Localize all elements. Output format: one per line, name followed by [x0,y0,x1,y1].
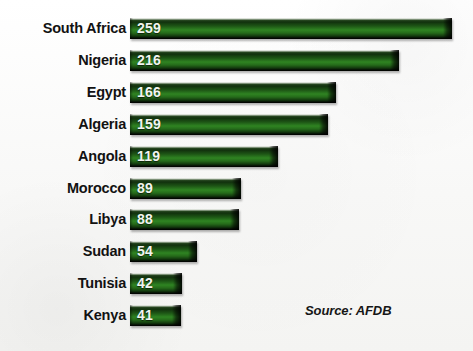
bar-row: Egypt166 [0,82,473,103]
bar-row: Tunisia42 [0,273,473,294]
source-annotation: Source: AFDB [305,303,391,318]
bar: 54 [130,241,197,262]
bar-row: Morocco89 [0,178,473,199]
bar: 42 [130,273,182,294]
bar-container: 41 [130,305,181,326]
bar-container: 88 [130,209,239,230]
bar-rows: South Africa259Nigeria216Egypt166Algeria… [0,0,473,351]
bar: 89 [130,178,241,199]
bar-value-label: 166 [137,82,161,103]
bar-row: Libya88 [0,209,473,230]
category-label: Kenya [0,305,130,326]
category-label: Morocco [0,178,130,199]
bar: 166 [130,82,336,103]
bar-value-label: 88 [137,209,153,230]
bar-row: South Africa259 [0,18,473,39]
category-label: Angola [0,146,130,167]
bar-value-label: 54 [137,241,153,262]
bar-row: Nigeria216 [0,50,473,71]
bar: 119 [130,146,278,167]
bar-container: 216 [130,50,399,71]
bar: 41 [130,305,181,326]
category-label: Libya [0,209,130,230]
category-label: Algeria [0,114,130,135]
bar: 259 [130,18,452,39]
bar-value-label: 216 [137,50,161,71]
bar-chart: South Africa259Nigeria216Egypt166Algeria… [0,0,473,351]
bar-row: Kenya41 [0,305,473,326]
bar-container: 42 [130,273,182,294]
bar-row: Algeria159 [0,114,473,135]
bar-value-label: 159 [137,114,161,135]
category-label: Tunisia [0,273,130,294]
bar: 159 [130,114,328,135]
bar-value-label: 259 [137,18,161,39]
bar: 88 [130,209,239,230]
bar-value-label: 119 [137,146,160,167]
bar-container: 166 [130,82,336,103]
category-label: Sudan [0,241,130,262]
bar-value-label: 41 [137,305,153,326]
bar-row: Sudan54 [0,241,473,262]
category-label: Egypt [0,82,130,103]
bar-container: 89 [130,178,241,199]
bar-value-label: 89 [137,178,153,199]
category-label: Nigeria [0,50,130,71]
bar-value-label: 42 [137,273,153,294]
bar-container: 54 [130,241,197,262]
category-label: South Africa [0,18,130,39]
bar-container: 159 [130,114,328,135]
bar-container: 119 [130,146,278,167]
bar-row: Angola119 [0,146,473,167]
bar-container: 259 [130,18,452,39]
bar: 216 [130,50,399,71]
